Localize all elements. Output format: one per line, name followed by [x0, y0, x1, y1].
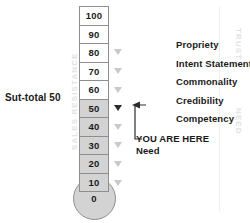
trust-factor-item: Propriety	[176, 36, 250, 55]
subtotal-label: Sut-total 50	[5, 92, 61, 103]
scale-value-90: 90	[89, 30, 100, 40]
triangle-down-icon	[114, 49, 122, 55]
triangle-down-icon	[114, 68, 122, 74]
triangle-down-icon	[114, 87, 122, 93]
triangle-down-icon	[114, 180, 122, 186]
scale-value-30: 30	[89, 141, 100, 151]
scale-cell-70[interactable]: 70	[80, 63, 108, 82]
trust-factor-item: Intent Statement	[176, 55, 250, 74]
scale-value-40: 40	[89, 122, 100, 132]
scale-cell-80[interactable]: 80	[80, 44, 108, 63]
trust-factor-list: ProprietyIntent StatementCommonalityCred…	[136, 36, 250, 129]
axis-label-sales-resistance: SALES RESISTANCE	[70, 53, 79, 150]
tick-marker-80	[112, 43, 124, 62]
scale-cell-40[interactable]: 40	[80, 118, 108, 137]
scale-cell-10[interactable]: 10	[80, 174, 108, 192]
bulb-value: 0	[91, 193, 96, 204]
trust-factor-item: Commonality	[176, 73, 250, 92]
tick-marker-20	[112, 155, 124, 174]
scale-cell-60[interactable]: 60	[80, 81, 108, 100]
scale-value-100: 100	[86, 11, 102, 21]
scale-value-70: 70	[89, 67, 100, 77]
you-are-here-connector	[118, 98, 148, 144]
trust-factor-item: Credibility	[176, 92, 250, 111]
scale-cell-90[interactable]: 90	[80, 26, 108, 45]
thermometer-scale: 100908070605040302010	[79, 6, 109, 192]
scale-value-80: 80	[89, 48, 100, 58]
scale-value-10: 10	[89, 178, 100, 188]
tick-marker-90	[112, 25, 124, 44]
scale-value-50: 50	[89, 104, 100, 114]
scale-cell-30[interactable]: 30	[80, 137, 108, 156]
scale-cell-50[interactable]: 50	[80, 100, 108, 119]
tick-marker-60	[112, 80, 124, 99]
scale-value-20: 20	[89, 159, 100, 169]
scale-cell-100[interactable]: 100	[80, 7, 108, 26]
triangle-down-icon	[114, 161, 122, 167]
tick-marker-70	[112, 62, 124, 81]
need-inline-label: Need	[136, 145, 160, 156]
tick-marker-100	[112, 6, 124, 25]
scale-value-60: 60	[89, 85, 100, 95]
trust-factor-item: Competency	[176, 110, 250, 129]
thermometer-diagram: SALES RESISTANCE TRUST NEED Sut-total 50…	[0, 0, 250, 223]
scale-cell-20[interactable]: 20	[80, 155, 108, 174]
